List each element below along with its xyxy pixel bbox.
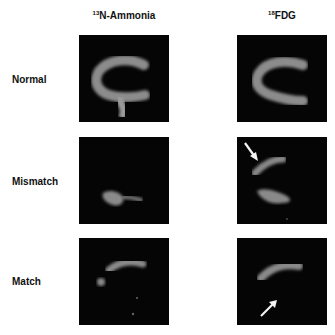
pet-image-normal-ammonia: [79, 35, 169, 122]
uptake-shape: [79, 238, 169, 325]
column-header-ammonia: 13N-Ammonia: [69, 10, 179, 21]
row-label-normal: Normal: [12, 74, 46, 85]
column-header-fdg: 18FDG: [227, 10, 335, 21]
uptake-shape: [79, 137, 169, 224]
uptake-shape: [237, 35, 327, 122]
arrow-icon: [237, 137, 327, 224]
pet-image-match-fdg: [237, 238, 327, 325]
tracer-name: FDG: [275, 10, 296, 21]
isotope-superscript: 18: [268, 10, 275, 16]
pet-image-match-ammonia: [79, 238, 169, 325]
row-label-match: Match: [12, 276, 41, 287]
row-label-mismatch: Mismatch: [12, 176, 58, 187]
arrow-icon: [237, 238, 327, 325]
uptake-shape: [79, 35, 169, 122]
pet-image-mismatch-fdg: [237, 137, 327, 224]
pet-image-normal-fdg: [237, 35, 327, 122]
tracer-name: N-Ammonia: [99, 10, 155, 21]
pet-image-mismatch-ammonia: [79, 137, 169, 224]
